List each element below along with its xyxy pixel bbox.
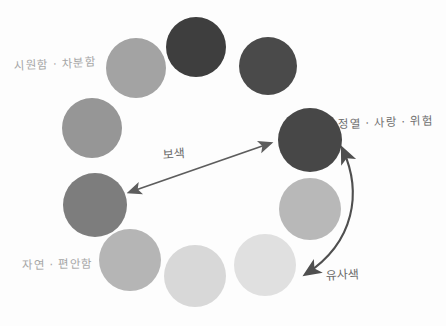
swatch-bottom-left bbox=[99, 229, 161, 291]
label-cool-calm: 시원함 · 차분함 bbox=[14, 53, 97, 73]
swatch-right-lower bbox=[279, 178, 341, 240]
annotation-complementary: 보색 bbox=[162, 143, 185, 161]
label-passion-love-danger: 정열 · 사랑 · 위험 bbox=[338, 112, 434, 131]
swatch-bottom-right bbox=[234, 234, 296, 296]
color-wheel-diagram: 시원함 · 차분함 정열 · 사랑 · 위험 자연 · 편안함 보색 유사색 bbox=[0, 0, 446, 326]
complementary-arrow bbox=[130, 143, 271, 192]
annotation-analogous: 유사색 bbox=[326, 264, 360, 283]
swatch-bottom bbox=[164, 245, 226, 307]
swatch-top-left bbox=[106, 38, 166, 98]
label-nature-comfort: 자연 · 편안함 bbox=[22, 255, 93, 272]
swatch-left-lower bbox=[63, 173, 127, 237]
swatch-top-right bbox=[239, 37, 297, 95]
swatch-top bbox=[166, 17, 226, 77]
swatch-right-upper bbox=[278, 108, 342, 172]
swatch-left-upper bbox=[62, 98, 122, 158]
